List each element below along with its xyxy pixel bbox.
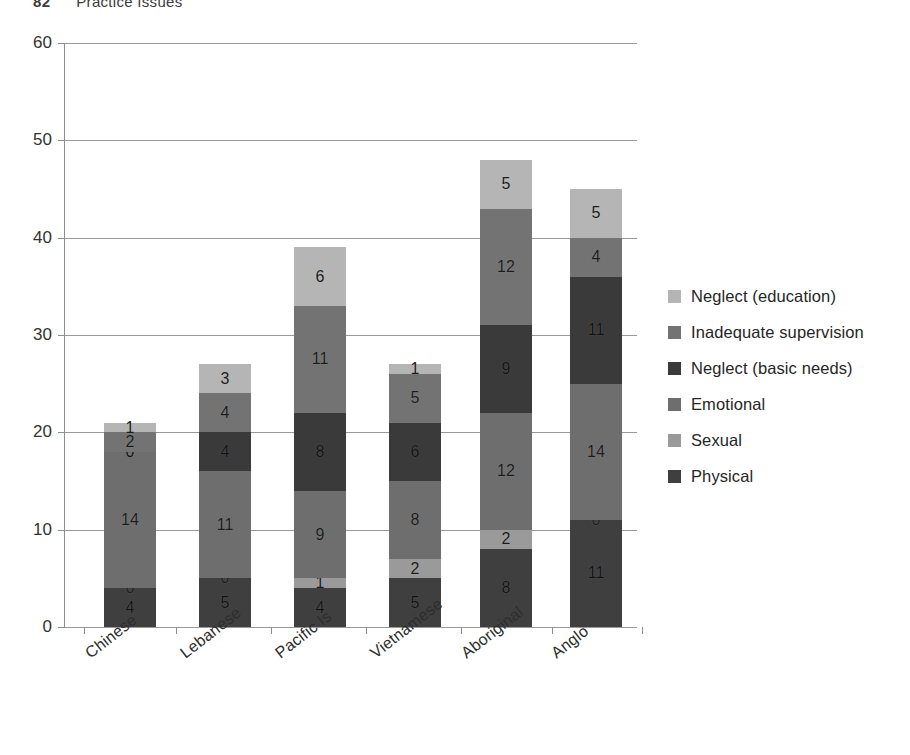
y-axis-tick-label: 60	[8, 34, 52, 51]
bar-segment: 1	[294, 578, 346, 588]
bar-segment-label: 2	[502, 531, 511, 547]
legend-swatch-icon	[668, 434, 681, 447]
bar-anglo[interactable]: 110141145	[570, 189, 622, 627]
x-axis-category-label: Anglo	[548, 622, 592, 662]
bar-pacific-is[interactable]: 4198116	[294, 247, 346, 627]
bar-segment-label: 12	[497, 463, 515, 479]
legend-swatch-icon	[668, 398, 681, 411]
legend-swatch-icon	[668, 326, 681, 339]
bar-segment: 14	[104, 452, 156, 588]
bar-segment-label: 2	[126, 434, 135, 450]
legend-swatch-icon	[668, 470, 681, 483]
x-axis-tick	[271, 627, 272, 634]
bar-segment-label: 11	[588, 322, 605, 338]
y-axis-tick-label: 40	[8, 229, 52, 246]
stacked-bar-chart: 0102030405060 40140215011443419811652865…	[0, 0, 910, 755]
bar-segment-label: 2	[411, 561, 420, 577]
bar-segment: 4	[199, 393, 251, 432]
legend-item[interactable]: Neglect (education)	[668, 278, 864, 314]
legend-item[interactable]: Neglect (basic needs)	[668, 350, 864, 386]
bar-segment: 2	[389, 559, 441, 578]
bar-segment-label: 9	[502, 361, 511, 377]
bar-segment-label: 6	[411, 444, 420, 460]
y-axis-tick	[58, 238, 65, 239]
x-axis-tick	[461, 627, 462, 634]
y-axis-labels: 0102030405060	[0, 0, 52, 755]
plot-area: 4014021501144341981165286518212912511014…	[65, 43, 637, 627]
bar-segment: 9	[480, 325, 532, 413]
legend-item[interactable]: Sexual	[668, 422, 864, 458]
y-axis-tick	[58, 432, 65, 433]
legend-item-label: Emotional	[691, 395, 765, 414]
y-axis-tick	[58, 530, 65, 531]
bar-segment-label: 12	[497, 259, 515, 275]
gridline	[65, 335, 637, 336]
bar-segment-label: 8	[502, 580, 511, 596]
legend-item-label: Neglect (basic needs)	[691, 359, 853, 378]
legend-item[interactable]: Emotional	[668, 386, 864, 422]
y-axis-tick	[58, 43, 65, 44]
bar-segment-label: 4	[221, 405, 230, 421]
bar-chinese[interactable]: 4014021	[104, 423, 156, 627]
legend-item[interactable]: Physical	[668, 458, 864, 494]
bar-segment-label: 5	[502, 176, 511, 192]
bar-segment-label: 8	[316, 444, 325, 460]
bar-segment-label: 11	[312, 351, 329, 367]
x-axis-tick	[366, 627, 367, 634]
y-axis-tick-label: 30	[8, 326, 52, 343]
bar-segment-label: 14	[587, 444, 605, 460]
bar-segment-label: 5	[411, 390, 420, 406]
x-axis-tick	[642, 627, 643, 634]
legend-item[interactable]: Inadequate supervision	[668, 314, 864, 350]
y-axis-tick-label: 20	[8, 423, 52, 440]
bar-segment: 14	[570, 384, 622, 520]
bar-segment-label: 4	[221, 444, 230, 460]
bar-segment: 1	[389, 364, 441, 374]
bar-segment-label: 3	[221, 371, 230, 387]
bar-segment: 2	[480, 530, 532, 549]
x-axis-tick	[552, 627, 553, 634]
bar-segment: 11	[199, 471, 251, 578]
bar-segment-label: 8	[411, 512, 420, 528]
legend-item-label: Neglect (education)	[691, 287, 836, 306]
bar-segment: 5	[389, 374, 441, 423]
bar-segment: 8	[389, 481, 441, 559]
y-axis-tick-label: 0	[8, 618, 52, 635]
bar-segment: 2	[104, 432, 156, 451]
gridline	[65, 43, 637, 44]
bar-vietnamese[interactable]: 528651	[389, 364, 441, 627]
bar-segment-label: 11	[217, 517, 234, 533]
bar-segment-label: 11	[588, 565, 605, 581]
bar-segment: 11	[294, 306, 346, 413]
bar-segment: 12	[480, 413, 532, 530]
bar-segment: 6	[294, 247, 346, 305]
legend-swatch-icon	[668, 362, 681, 375]
bar-segment: 5	[480, 160, 532, 209]
legend-item-label: Physical	[691, 467, 753, 486]
bar-segment: 5	[570, 189, 622, 238]
legend-swatch-icon	[668, 290, 681, 303]
gridline	[65, 238, 637, 239]
x-axis-tick	[176, 627, 177, 634]
bar-aboriginal[interactable]: 82129125	[480, 160, 532, 627]
bar-segment-label: 5	[592, 205, 601, 221]
bar-segment: 3	[199, 364, 251, 393]
legend-item-label: Inadequate supervision	[691, 323, 864, 342]
y-axis-tick	[58, 140, 65, 141]
bar-segment: 6	[389, 423, 441, 481]
bar-segment-label: 14	[121, 512, 139, 528]
bar-segment: 9	[294, 491, 346, 579]
x-axis-tick	[84, 627, 85, 634]
bar-segment: 4	[570, 238, 622, 277]
bar-segment: 11	[570, 277, 622, 384]
bar-segment: 1	[104, 423, 156, 433]
y-axis-tick-label: 50	[8, 131, 52, 148]
bar-lebanese[interactable]: 5011443	[199, 364, 251, 627]
legend-item-label: Sexual	[691, 431, 742, 450]
bar-segment: 12	[480, 209, 532, 326]
bar-segment: 8	[294, 413, 346, 491]
bar-segment-label: 6	[316, 269, 325, 285]
y-axis-tick-label: 10	[8, 521, 52, 538]
bar-segment: 11	[570, 520, 622, 627]
y-axis-tick	[58, 627, 65, 628]
